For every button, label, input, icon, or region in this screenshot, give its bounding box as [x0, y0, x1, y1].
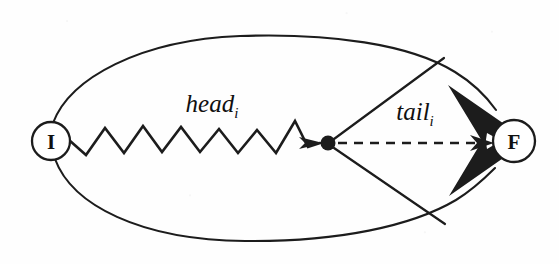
diagram-canvas: I F headi taili — [0, 0, 559, 264]
lower-arc-edge — [55, 159, 495, 241]
junction-dot — [321, 136, 336, 151]
tail-label-subscript: i — [430, 113, 434, 129]
figure-container: I F headi taili — [0, 0, 559, 264]
lower-branch-edge — [334, 148, 445, 224]
head-label: headi — [186, 90, 239, 121]
head-label-base: head — [186, 90, 235, 117]
head-label-subscript: i — [234, 105, 238, 121]
head-zigzag-edge — [69, 121, 320, 155]
tail-label: taili — [396, 98, 434, 129]
node-i-label: I — [47, 130, 55, 154]
tail-label-base: tail — [396, 98, 429, 125]
node-f-label: F — [508, 130, 521, 154]
